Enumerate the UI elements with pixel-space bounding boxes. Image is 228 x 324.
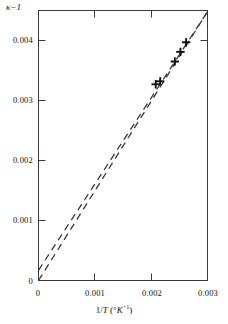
y-tick-label-0: 0 (0, 276, 33, 286)
y-tick-label-3: 0.003 (0, 95, 33, 105)
y-tick-label-2: 0.002 (0, 155, 33, 165)
x-tick-label-2: 0.002 (142, 288, 162, 298)
plot-canvas (0, 0, 228, 324)
x-axis-title-unit-open: (° (108, 305, 117, 315)
x-tick-label-0: 0 (36, 288, 40, 298)
chart-figure: κ−1 0 (0, 0, 228, 324)
x-tick-label-1: 0.001 (85, 288, 105, 298)
x-axis-title-unit-close: ) (129, 305, 132, 315)
x-tick-label-3: 0.003 (198, 288, 218, 298)
x-axis-title: 1/T (°K−1) (0, 305, 228, 315)
x-axis-title-prefix: 1/ (96, 305, 103, 315)
y-tick-label-1: 0.001 (0, 215, 33, 225)
y-tick-label-4: 0.004 (0, 35, 33, 45)
